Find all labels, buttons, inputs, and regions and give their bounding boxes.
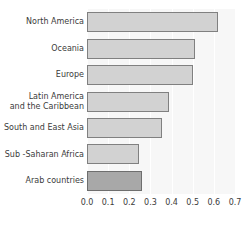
- bar-sub--saharan-africa: [87, 144, 139, 164]
- category-label: South and East Asia: [0, 123, 84, 133]
- bar-row: [87, 171, 235, 191]
- bar-row: [87, 12, 235, 32]
- gridline-0-7: [235, 9, 236, 194]
- x-tick-label: 0.6: [207, 198, 220, 208]
- plot-area: [87, 9, 235, 194]
- bar-chart: North AmericaOceaniaEuropeLatin America …: [0, 0, 246, 228]
- bar-latin-america-and-the-caribbean: [87, 92, 169, 112]
- x-tick-label: 0.5: [186, 198, 199, 208]
- bar-row: [87, 39, 235, 59]
- bar-europe: [87, 65, 193, 85]
- category-label: Europe: [0, 70, 84, 80]
- category-label: Latin America and the Caribbean: [0, 92, 84, 111]
- bar-arab-countries: [87, 171, 142, 191]
- x-tick-label: 0.7: [229, 198, 242, 208]
- x-axis-tick-labels: 0.00.10.20.30.40.50.60.7: [87, 198, 235, 212]
- x-tick-label: 0.1: [102, 198, 115, 208]
- x-tick-label: 0.4: [165, 198, 178, 208]
- x-tick-label: 0.2: [123, 198, 136, 208]
- category-label: Oceania: [0, 44, 84, 54]
- category-label: North America: [0, 17, 84, 27]
- bar-oceania: [87, 39, 195, 59]
- bar-north-america: [87, 12, 218, 32]
- category-label: Arab countries: [0, 176, 84, 186]
- bar-row: [87, 118, 235, 138]
- bar-row: [87, 144, 235, 164]
- bar-row: [87, 92, 235, 112]
- x-tick-label: 0.3: [144, 198, 157, 208]
- bar-south-and-east-asia: [87, 118, 162, 138]
- category-axis-labels: North AmericaOceaniaEuropeLatin America …: [0, 9, 84, 194]
- x-tick-label: 0.0: [81, 198, 94, 208]
- category-label: Sub -Saharan Africa: [0, 150, 84, 160]
- bar-row: [87, 65, 235, 85]
